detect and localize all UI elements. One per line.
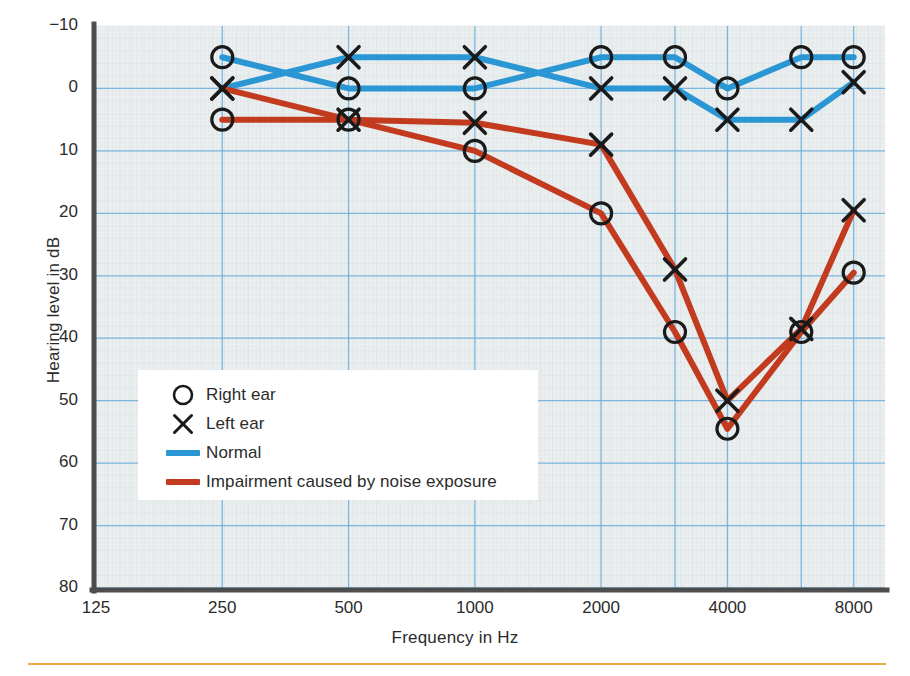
line-swatch <box>166 479 200 485</box>
legend-item: Right ear <box>160 380 538 409</box>
legend-item: Impairment caused by noise exposure <box>160 467 538 496</box>
legend-item: Left ear <box>160 409 538 438</box>
circle-marker-icon <box>160 382 206 408</box>
legend-item: Normal <box>160 438 538 467</box>
line-swatch <box>166 450 200 456</box>
line-swatch-icon <box>160 479 206 485</box>
plot-canvas <box>0 0 910 676</box>
plot-background <box>96 26 885 588</box>
legend-item-label: Normal <box>206 443 261 463</box>
chart-legend: Right earLeft earNormalImpairment caused… <box>138 370 538 500</box>
line-swatch-icon <box>160 450 206 456</box>
audiogram-figure: Hearing level in dB Frequency in Hz −100… <box>0 0 910 676</box>
bottom-rule-divider <box>28 663 886 665</box>
cross-marker-icon <box>160 411 206 437</box>
legend-item-label: Left ear <box>206 414 264 434</box>
legend-item-label: Right ear <box>206 385 276 405</box>
legend-item-label: Impairment caused by noise exposure <box>206 472 497 492</box>
